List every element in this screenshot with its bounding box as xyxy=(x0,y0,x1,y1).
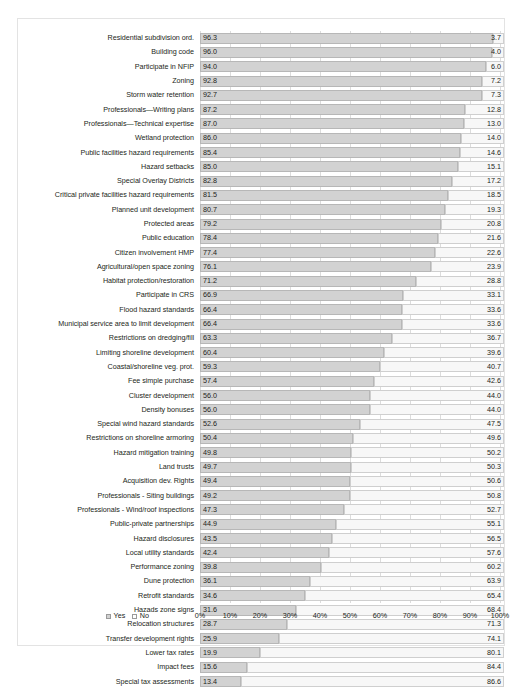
chart-row: Zoning92.87.2 xyxy=(18,74,504,88)
row-bar-track: 43.556.5 xyxy=(200,533,504,544)
bar-value-no: 15.1 xyxy=(487,163,501,171)
chart-row: Building code96.04.0 xyxy=(18,45,504,59)
bar-segment-yes: 49.7 xyxy=(200,462,351,473)
row-category-label: Habitat protection/restoration xyxy=(18,277,200,285)
bar-value-yes: 49.8 xyxy=(203,449,217,457)
bar-value-no: 7.2 xyxy=(491,77,501,85)
row-bar-track: 49.450.6 xyxy=(200,476,504,487)
row-category-label: Planned unit development xyxy=(18,206,200,214)
legend-item-yes[interactable]: Yes xyxy=(106,611,125,621)
bar-value-yes: 96.0 xyxy=(203,48,217,56)
bar-value-no: 19.3 xyxy=(487,206,501,214)
bar-segment-no: 86.6 xyxy=(241,676,504,687)
chart-legend: YesNo xyxy=(106,611,149,621)
bar-value-no: 28.8 xyxy=(487,277,501,285)
chart-row: Performance zoning39.860.2 xyxy=(18,560,504,574)
bar-segment-no: 23.9 xyxy=(431,261,504,272)
bar-value-no: 80.1 xyxy=(487,649,501,657)
row-bar-track: 13.486.6 xyxy=(200,676,504,687)
row-category-label: Cluster development xyxy=(18,392,200,400)
bar-segment-yes: 39.8 xyxy=(200,562,321,573)
chart-row: Citizen involvement HMP77.422.6 xyxy=(18,245,504,259)
bar-segment-yes: 82.8 xyxy=(200,176,452,187)
row-category-label: Fee simple purchase xyxy=(18,377,200,385)
row-category-label: Land trusts xyxy=(18,463,200,471)
row-bar-track: 34.665.4 xyxy=(200,590,504,601)
bar-value-yes: 13.4 xyxy=(203,678,217,686)
row-category-label: Retrofit standards xyxy=(18,592,200,600)
row-bar-track: 79.220.8 xyxy=(200,219,504,230)
x-axis-tick-label: 0% xyxy=(195,611,205,621)
bar-value-no: 14.0 xyxy=(487,134,501,142)
bar-segment-yes: 80.7 xyxy=(200,204,445,215)
bar-value-yes: 81.5 xyxy=(203,191,217,199)
bar-segment-yes: 76.1 xyxy=(200,261,431,272)
bar-segment-yes: 43.5 xyxy=(200,533,332,544)
bar-segment-no: 18.5 xyxy=(448,190,504,201)
bar-segment-yes: 49.4 xyxy=(200,476,350,487)
legend-swatch-icon xyxy=(132,614,137,619)
bar-segment-yes: 71.2 xyxy=(200,276,416,287)
figure-frame: Residential subdivision ord.96.33.7Build… xyxy=(17,18,505,646)
bar-value-no: 52.7 xyxy=(487,506,501,514)
bar-segment-no: 21.6 xyxy=(438,233,504,244)
bar-value-yes: 36.1 xyxy=(203,577,217,585)
row-bar-track: 81.518.5 xyxy=(200,190,504,201)
bar-segment-yes: 42.4 xyxy=(200,547,329,558)
row-category-label: Density bonuses xyxy=(18,406,200,414)
bar-value-yes: 19.9 xyxy=(203,649,217,657)
bar-segment-yes: 49.8 xyxy=(200,447,351,458)
bar-value-no: 36.7 xyxy=(487,334,501,342)
bar-value-yes: 63.3 xyxy=(203,334,217,342)
chart-row: Hazard setbacks85.015.1 xyxy=(18,160,504,174)
chart-row: Wetland protection86.014.0 xyxy=(18,131,504,145)
bar-value-yes: 44.9 xyxy=(203,520,217,528)
bar-segment-no: 50.3 xyxy=(351,462,504,473)
row-bar-track: 56.044.0 xyxy=(200,404,504,415)
row-bar-track: 71.228.8 xyxy=(200,276,504,287)
chart-row: Restrictions on shoreline armoring50.449… xyxy=(18,431,504,445)
bar-segment-no: 14.0 xyxy=(461,133,504,144)
chart-row: Participate in CRS66.933.1 xyxy=(18,288,504,302)
row-bar-track: 49.750.3 xyxy=(200,462,504,473)
chart-row: Fee simple purchase57.442.6 xyxy=(18,374,504,388)
row-bar-track: 66.433.6 xyxy=(200,304,504,315)
row-bar-track: 82.817.2 xyxy=(200,176,504,187)
legend-label: No xyxy=(140,611,149,621)
chart-row: Special Overlay Districts82.817.2 xyxy=(18,174,504,188)
row-bar-track: 49.850.2 xyxy=(200,447,504,458)
bar-value-no: 23.9 xyxy=(487,263,501,271)
bar-value-no: 40.7 xyxy=(487,363,501,371)
bar-value-yes: 25.9 xyxy=(203,635,217,643)
bar-value-yes: 39.8 xyxy=(203,563,217,571)
bar-value-no: 14.6 xyxy=(487,149,501,157)
row-category-label: Participate in NFIP xyxy=(18,63,200,71)
row-category-label: Special tax assessments xyxy=(18,678,200,686)
bar-value-no: 49.6 xyxy=(487,434,501,442)
bar-value-yes: 49.2 xyxy=(203,492,217,500)
bar-segment-yes: 56.0 xyxy=(200,390,370,401)
bar-segment-no: 14.6 xyxy=(460,147,504,158)
chart-row: Acquisition dev. Rights49.450.6 xyxy=(18,474,504,488)
bar-value-no: 33.1 xyxy=(487,291,501,299)
x-axis-ticks: 0%10%20%30%40%50%60%70%80%90%100% xyxy=(200,611,500,625)
chart-row: Land trusts49.750.3 xyxy=(18,460,504,474)
bar-segment-no: 56.5 xyxy=(332,533,504,544)
bar-segment-yes: 13.4 xyxy=(200,676,241,687)
bar-value-no: 60.2 xyxy=(487,563,501,571)
bar-segment-yes: 66.4 xyxy=(200,304,402,315)
bar-segment-no: 63.9 xyxy=(310,576,504,587)
x-axis-tick-label: 100% xyxy=(491,611,509,621)
row-bar-track: 66.433.6 xyxy=(200,319,504,330)
bar-segment-no: 42.6 xyxy=(374,376,504,387)
bar-segment-no: 12.8 xyxy=(465,104,504,115)
legend-item-no[interactable]: No xyxy=(132,611,149,621)
x-axis-tick-label: 80% xyxy=(433,611,447,621)
bar-value-yes: 77.4 xyxy=(203,249,217,257)
bar-value-no: 39.6 xyxy=(487,349,501,357)
bar-value-no: 56.5 xyxy=(487,535,501,543)
row-bar-track: 60.439.6 xyxy=(200,347,504,358)
bar-segment-no: 50.2 xyxy=(351,447,504,458)
row-category-label: Agricultural/open space zoning xyxy=(18,263,200,271)
row-bar-track: 92.87.2 xyxy=(200,76,504,87)
